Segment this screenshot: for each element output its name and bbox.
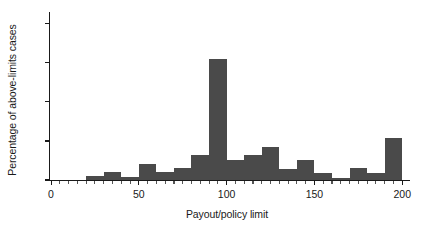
bar: [350, 168, 368, 180]
x-tick-mark-minor: [182, 181, 183, 184]
x-tick-mark: [244, 181, 245, 184]
x-tick-mark-minor: [393, 181, 394, 184]
x-tick-mark: [261, 181, 262, 184]
x-tick-mark-minor: [59, 181, 60, 184]
x-tick-mark-minor: [165, 181, 166, 184]
x-axis-title: Payout/policy limit: [51, 208, 403, 220]
x-tick-mark: [191, 181, 192, 184]
x-tick-mark: [296, 181, 297, 184]
x-tick-mark-minor: [358, 181, 359, 184]
x-tick-mark-minor: [252, 181, 253, 184]
x-tick-mark: [156, 181, 157, 184]
bar: [174, 168, 192, 180]
x-tick-mark-minor: [270, 181, 271, 184]
x-tick-mark: [226, 181, 227, 185]
x-tick-mark: [314, 181, 315, 185]
x-tick-mark: [279, 181, 280, 184]
bar: [209, 59, 227, 180]
x-tick-mark-minor: [375, 181, 376, 184]
x-tick-mark-minor: [112, 181, 113, 184]
bar: [244, 155, 262, 180]
bar: [104, 172, 122, 180]
bar: [121, 177, 139, 180]
x-tick-mark: [86, 181, 87, 184]
x-tick-mark-minor: [147, 181, 148, 184]
bar: [86, 176, 104, 180]
x-tick-mark-minor: [200, 181, 201, 184]
y-tick-mark: [45, 23, 50, 24]
histogram-chart: Percentage of above-limits cases 0102030…: [0, 0, 425, 235]
y-tick-mark: [45, 140, 50, 141]
bar: [191, 155, 209, 180]
x-tick-mark: [121, 181, 122, 184]
x-tick-mark-minor: [288, 181, 289, 184]
x-tick-mark: [331, 181, 332, 184]
x-tick-mark-minor: [217, 181, 218, 184]
bar: [297, 160, 315, 180]
x-tick-mark-minor: [77, 181, 78, 184]
x-tick-label: 50: [119, 188, 159, 200]
x-tick-mark: [349, 181, 350, 184]
x-tick-mark: [209, 181, 210, 184]
bar: [156, 172, 174, 180]
x-tick-label: 200: [382, 188, 422, 200]
x-tick-label: 0: [31, 188, 71, 200]
bar: [332, 178, 350, 180]
y-axis-title: Percentage of above-limits cases: [4, 2, 20, 198]
x-tick-mark-minor: [235, 181, 236, 184]
x-tick-mark: [103, 181, 104, 184]
bar: [385, 138, 403, 180]
x-tick-mark: [402, 181, 403, 185]
x-tick-mark: [384, 181, 385, 184]
bar: [367, 173, 385, 180]
y-tick-mark: [45, 62, 50, 63]
x-tick-mark: [51, 181, 52, 185]
x-tick-mark: [173, 181, 174, 184]
y-tick-mark: [45, 179, 50, 180]
bar: [314, 173, 332, 180]
bar: [262, 147, 280, 180]
bar: [227, 160, 245, 180]
x-tick-label: 100: [207, 188, 247, 200]
x-tick-mark-minor: [94, 181, 95, 184]
bar: [279, 169, 297, 180]
x-tick-mark-minor: [323, 181, 324, 184]
bar: [139, 164, 157, 180]
x-tick-mark: [138, 181, 139, 185]
x-tick-mark-minor: [340, 181, 341, 184]
bar-series: [51, 12, 411, 180]
x-tick-mark: [68, 181, 69, 184]
x-tick-label: 150: [294, 188, 334, 200]
x-tick-mark-minor: [305, 181, 306, 184]
x-tick-mark: [367, 181, 368, 184]
x-tick-mark-minor: [130, 181, 131, 184]
y-tick-mark: [45, 101, 50, 102]
